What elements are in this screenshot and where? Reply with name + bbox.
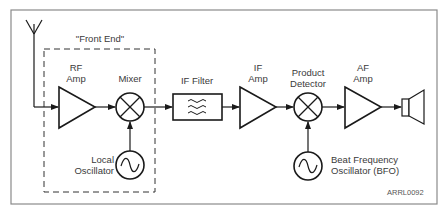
product-detector-label: Product Detector — [283, 67, 333, 89]
rf-amp-label-line1: RF — [61, 62, 91, 73]
af-amp-label: AF Amp — [348, 62, 378, 84]
bfo-label-line1: Beat Frequency — [331, 154, 399, 165]
rf-amp-label-line2: Amp — [61, 73, 91, 84]
product-detector-icon — [294, 93, 322, 121]
local-oscillator-label: Local Oscillator — [70, 154, 114, 176]
receiver-block-diagram — [0, 0, 446, 215]
product-detector-label-line2: Detector — [283, 78, 333, 89]
af-amp-label-line2: Amp — [348, 73, 378, 84]
if-filter-icon — [173, 94, 222, 120]
mixer-label: Mixer — [110, 73, 150, 84]
bfo-icon — [294, 152, 322, 180]
local-oscillator-label-line2: Oscillator — [70, 165, 114, 176]
product-detector-label-line1: Product — [283, 67, 333, 78]
local-oscillator-icon — [116, 151, 144, 179]
if-amp-label-line1: IF — [243, 62, 273, 73]
figure-code: ARRL0092 — [387, 188, 424, 197]
if-amp-label-line2: Amp — [243, 73, 273, 84]
bfo-label-line2: Oscillator (BFO) — [331, 165, 399, 176]
rf-amp-label: RF Amp — [61, 62, 91, 84]
rf-amp-icon — [59, 87, 95, 128]
local-oscillator-label-line1: Local — [70, 154, 114, 165]
if-amp-icon — [240, 87, 276, 128]
if-amp-label: IF Amp — [243, 62, 273, 84]
af-amp-icon — [345, 87, 381, 128]
speaker-icon — [402, 90, 424, 124]
af-amp-label-line1: AF — [348, 62, 378, 73]
bfo-label: Beat Frequency Oscillator (BFO) — [331, 154, 399, 176]
front-end-label: "Front End" — [70, 33, 130, 44]
if-filter-label: IF Filter — [172, 75, 222, 86]
antenna-icon — [26, 20, 42, 107]
mixer-icon — [116, 93, 144, 121]
